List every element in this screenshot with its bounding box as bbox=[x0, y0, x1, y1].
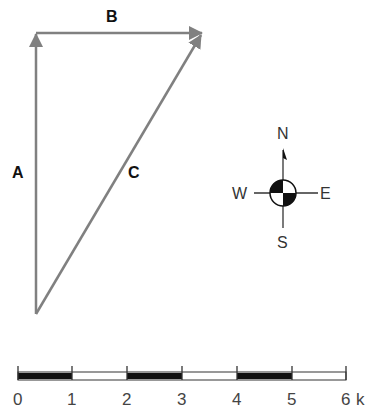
north-arrow-icon bbox=[283, 148, 287, 160]
vector-c bbox=[36, 35, 201, 314]
scale-tick-5: 5 bbox=[287, 390, 296, 409]
scale-tick-1: 1 bbox=[67, 390, 76, 409]
scale-tick-3: 3 bbox=[177, 390, 186, 409]
compass-north: N bbox=[277, 125, 289, 142]
compass-east: E bbox=[320, 185, 331, 202]
vector-diagram: B A C N S E W 0 1 2 3 4 5 6 k bbox=[0, 0, 365, 414]
scale-tick-2: 2 bbox=[122, 390, 131, 409]
scale-tick-0: 0 bbox=[13, 390, 22, 409]
label-a: A bbox=[12, 164, 24, 181]
label-b: B bbox=[106, 8, 118, 25]
compass-rose-icon: N S E W bbox=[232, 125, 331, 251]
scale-tick-4: 4 bbox=[232, 390, 241, 409]
compass-west: W bbox=[232, 185, 248, 202]
scale-unit: k bbox=[356, 390, 365, 409]
compass-south: S bbox=[277, 234, 288, 251]
scale-tick-6: 6 bbox=[341, 390, 350, 409]
label-c: C bbox=[128, 164, 140, 181]
scale-bar: 0 1 2 3 4 5 6 k bbox=[13, 366, 365, 409]
